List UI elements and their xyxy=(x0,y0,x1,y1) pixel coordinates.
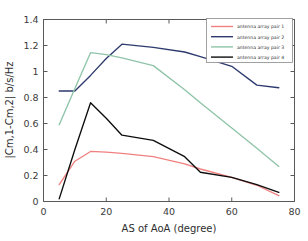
legend-label-1: antenna array pair 1 xyxy=(237,24,284,29)
legend: antenna array pair 1antenna array pair 2… xyxy=(207,19,293,63)
y-tick-label: 0 xyxy=(32,196,38,207)
y-tick-label: 0.2 xyxy=(23,170,38,181)
y-tick-label: 1.2 xyxy=(23,40,38,51)
series-line-1 xyxy=(59,151,279,195)
chart-figure: 020406080 00.20.40.60.811.21.4 AS of AoA… xyxy=(0,0,308,241)
y-axis-tick-labels: 00.20.40.60.811.21.4 xyxy=(23,14,38,207)
legend-label-4: antenna array pair 4 xyxy=(237,55,284,60)
x-axis-tick-labels: 020406080 xyxy=(40,206,300,217)
x-tick-label: 0 xyxy=(40,206,46,217)
x-tick-label: 80 xyxy=(288,206,300,217)
y-axis-title: |Cm,1-Cm,2| b/s/Hz xyxy=(4,61,16,158)
series-lines xyxy=(59,44,279,199)
legend-label-2: antenna array pair 2 xyxy=(237,35,284,40)
x-tick-label: 20 xyxy=(100,206,112,217)
legend-label-3: antenna array pair 3 xyxy=(237,45,284,50)
x-tick-label: 60 xyxy=(226,206,238,217)
y-tick-label: 0.8 xyxy=(23,92,38,103)
y-tick-label: 1 xyxy=(32,66,38,77)
series-line-4 xyxy=(59,103,279,199)
line-chart: 020406080 00.20.40.60.811.21.4 AS of AoA… xyxy=(0,0,308,241)
x-axis-title: AS of AoA (degree) xyxy=(122,223,217,234)
y-tick-label: 0.6 xyxy=(23,118,38,129)
x-tick-label: 40 xyxy=(163,206,175,217)
y-tick-label: 1.4 xyxy=(23,14,38,25)
y-tick-label: 0.4 xyxy=(23,144,38,155)
series-line-3 xyxy=(59,53,279,167)
